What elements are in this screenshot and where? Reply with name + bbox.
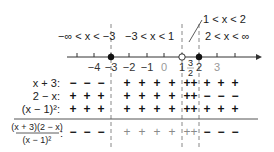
plus-sign: + xyxy=(97,102,104,116)
minus-sign: − xyxy=(83,76,90,90)
plus-sign: + xyxy=(123,76,130,90)
minus-sign: − xyxy=(203,125,210,139)
plus-sign: + xyxy=(138,102,145,116)
plus-sign: ++ xyxy=(183,102,197,116)
interval-left-label: −∞ < x < −3 xyxy=(58,30,115,42)
plus-sign: + xyxy=(153,102,160,116)
tick-label: 1 xyxy=(179,61,185,73)
plus-sign: + xyxy=(217,102,224,116)
result-colon: : xyxy=(60,127,63,139)
arrow-right-icon xyxy=(256,54,262,60)
plus-sign: + xyxy=(83,102,90,116)
plus-sign: + xyxy=(69,102,76,116)
plus-sign: + xyxy=(153,76,160,90)
minus-sign: − xyxy=(203,89,210,103)
minus-sign: − xyxy=(97,76,104,90)
minus-sign: − xyxy=(217,89,224,103)
interval-middle-label: −3 < x < 1 xyxy=(125,30,174,42)
plus-sign: + xyxy=(168,125,175,139)
plus-sign: + xyxy=(168,89,175,103)
tick-label: −4 xyxy=(88,61,101,73)
plus-sign: ++ xyxy=(183,125,197,139)
interval-narrow-label: 1 < x < 2 xyxy=(203,13,246,25)
plus-sign: + xyxy=(123,89,130,103)
plus-sign: + xyxy=(231,76,238,90)
minus-sign: − xyxy=(69,125,76,139)
plus-sign: + xyxy=(168,102,175,116)
tick-marks: −4−3−2−10123 xyxy=(77,53,235,73)
closed-point-neg3 xyxy=(108,54,114,60)
result-denominator: (x − 1)² xyxy=(23,135,52,145)
minus-sign: − xyxy=(231,125,238,139)
tick-label: 3 xyxy=(214,61,220,73)
plus-sign: + xyxy=(153,89,160,103)
row-label-x-plus-3: x + 3: xyxy=(33,77,60,89)
plus-sign: + xyxy=(217,76,224,90)
plus-sign: + xyxy=(123,102,130,116)
plus-sign: + xyxy=(168,76,175,90)
open-point-1 xyxy=(179,54,185,60)
minus-sign: − xyxy=(69,76,76,90)
plus-sign: + xyxy=(123,125,130,139)
sign-chart: −∞ < x < −3 −3 < x < 1 1 < x < 2 2 < x <… xyxy=(0,0,274,152)
plus-sign: + xyxy=(203,102,210,116)
plus-sign: + xyxy=(69,89,76,103)
tick-label: 0 xyxy=(161,61,167,73)
interval-right-label: 2 < x < ∞ xyxy=(205,30,250,42)
result-numerator: (x + 3)(2 − x) xyxy=(11,122,63,132)
plus-sign: + xyxy=(138,125,145,139)
tick-label: −1 xyxy=(141,61,154,73)
minus-sign: − xyxy=(97,125,104,139)
plus-sign: + xyxy=(83,89,90,103)
closed-point-2 xyxy=(196,54,202,60)
plus-sign: ++ xyxy=(183,76,197,90)
plus-sign: + xyxy=(97,89,104,103)
plus-sign: + xyxy=(153,125,160,139)
plus-sign: ++ xyxy=(183,89,197,103)
plus-sign: + xyxy=(231,102,238,116)
plus-sign: + xyxy=(138,89,145,103)
leader-line xyxy=(189,20,202,42)
minus-sign: − xyxy=(83,125,90,139)
row-label-x-minus-1-sq: (x − 1)²: xyxy=(22,103,60,115)
row-label-2-minus-x: 2 − x: xyxy=(33,90,60,102)
minus-sign: − xyxy=(217,125,224,139)
plus-sign: + xyxy=(138,76,145,90)
test-point-numerator: 3 xyxy=(188,58,193,68)
tick-label: 2 xyxy=(196,61,202,73)
tick-label: −3 xyxy=(105,61,118,73)
sign-rows: −−−++++++++++++++++−−−++++++++++++++−−−+… xyxy=(69,76,238,139)
minus-sign: − xyxy=(231,89,238,103)
tick-label: −2 xyxy=(123,61,136,73)
plus-sign: + xyxy=(203,76,210,90)
